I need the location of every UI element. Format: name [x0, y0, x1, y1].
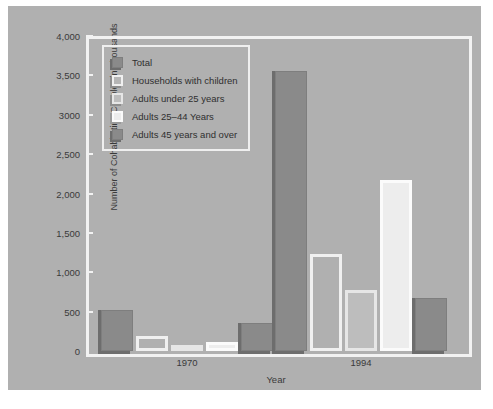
legend-swatch-icon-2	[112, 93, 123, 104]
bar-1970-series-3	[206, 342, 238, 351]
y-tick-label-1000: 1,000	[36, 267, 80, 278]
legend-swatch-icon-4	[112, 129, 123, 140]
bar-1970-series-1	[136, 336, 168, 351]
y-tick-label-2000: 2,000	[36, 188, 80, 199]
legend-swatch-icon-1	[112, 75, 123, 86]
legend-label-4: Adults 45 years and over	[132, 129, 237, 140]
chart-legend: TotalHouseholds with childrenAdults unde…	[102, 45, 250, 151]
legend-label-3: Adults 25–44 Years	[132, 111, 214, 122]
figure-caption	[280, 396, 493, 409]
legend-label-0: Total	[132, 57, 152, 68]
y-tick-label-1500: 1,500	[36, 227, 80, 238]
x-axis-group-label-1970: 1970	[157, 357, 217, 368]
bar-1994-series-2	[345, 290, 377, 351]
bar-1970-series-0	[101, 310, 133, 351]
bar-1970-series-4	[241, 323, 273, 351]
bar-1994-series-0	[275, 71, 307, 351]
legend-swatch-icon-3	[112, 111, 123, 122]
legend-item-3: Adults 25–44 Years	[112, 107, 238, 125]
y-axis-tick-labels: 05001,0001,5002,0002,50030003,5004,000	[32, 36, 80, 351]
legend-item-4: Adults 45 years and over	[112, 125, 238, 143]
bar-1994-series-4	[415, 298, 447, 351]
y-tick-label-0: 0	[36, 346, 80, 357]
y-tick-label-3000: 3000	[36, 109, 80, 120]
legend-item-2: Adults under 25 years	[112, 89, 238, 107]
legend-item-0: Total	[112, 53, 238, 71]
legend-label-1: Households with children	[132, 75, 238, 86]
x-axis-group-label-1994: 1994	[331, 357, 391, 368]
legend-swatch-icon-0	[112, 57, 123, 68]
legend-label-2: Adults under 25 years	[132, 93, 224, 104]
y-tick-label-2500: 2,500	[36, 149, 80, 160]
figure: Number of Cohabitating Couples in Thousa…	[0, 0, 493, 409]
x-axis-title: Year	[86, 374, 466, 385]
bar-1994-series-3	[380, 180, 412, 351]
chart-canvas: Number of Cohabitating Couples in Thousa…	[8, 6, 481, 390]
y-tick-label-500: 500	[36, 306, 80, 317]
legend-item-1: Households with children	[112, 71, 238, 89]
bar-1970-series-2	[171, 345, 203, 351]
y-tick-label-3500: 3,500	[36, 70, 80, 81]
bar-1994-series-1	[310, 254, 342, 351]
y-tick-label-4000: 4,000	[36, 31, 80, 42]
